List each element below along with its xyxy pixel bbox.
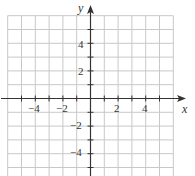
y-tick-label-4: 4 (78, 39, 84, 50)
coordinate-plane (0, 0, 195, 176)
x-tick-label-neg2: −2 (56, 103, 68, 114)
y-axis-label: y (78, 2, 83, 14)
x-axis-label: x (182, 103, 187, 115)
y-tick-label-neg4: −4 (70, 147, 82, 158)
y-axis (87, 5, 94, 176)
y-tick-label-2: 2 (78, 66, 84, 77)
y-tick-label-neg2: −2 (70, 120, 82, 131)
x-axis (1, 95, 186, 102)
x-tick-label-4: 4 (142, 103, 148, 114)
x-tick-label-2: 2 (114, 103, 120, 114)
x-tick-label-neg4: −4 (28, 103, 40, 114)
